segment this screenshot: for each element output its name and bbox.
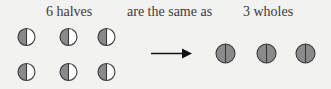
half-circle [60, 64, 77, 81]
half-circle [98, 29, 115, 46]
fraction-diagram [0, 0, 331, 89]
right-arrow-icon [151, 49, 192, 59]
whole-circle [257, 44, 276, 63]
whole-circle [216, 44, 235, 63]
half-circle [18, 29, 35, 46]
half-circle [98, 64, 115, 81]
half-circle [60, 29, 77, 46]
half-circle [18, 64, 35, 81]
whole-circle [296, 44, 315, 63]
